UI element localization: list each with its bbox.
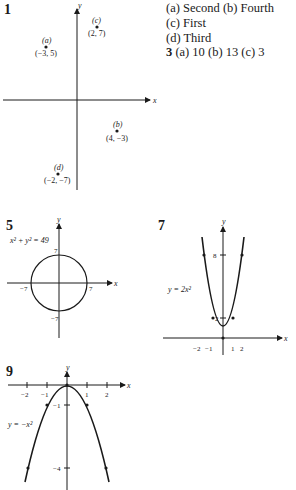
- point-d-coord: (−2, −7): [44, 176, 71, 185]
- problem-7-graph: 8 2 x y y = 2x² −2 −1 1 2: [150, 215, 296, 365]
- svg-text:2: 2: [240, 345, 244, 353]
- answer-1-line-3: (d) Third: [166, 31, 211, 46]
- svg-text:2: 2: [215, 315, 219, 323]
- svg-text:−7: −7: [20, 285, 28, 293]
- svg-text:y: y: [56, 215, 61, 224]
- svg-text:7: 7: [54, 247, 58, 255]
- answer-3-line: 3 (a) 10 (b) 13 (c) 3: [166, 45, 265, 60]
- equation-9: y = −x²: [7, 420, 33, 429]
- problem-5-graph: x y x² + y² = 49 7 −7 −7 7: [0, 215, 150, 345]
- point-d-tag: (d): [54, 163, 64, 172]
- svg-text:x: x: [126, 381, 131, 390]
- point-b-coord: (4, −3): [106, 134, 128, 143]
- svg-text:2: 2: [105, 391, 109, 399]
- point-c-coord: (2, 7): [88, 29, 106, 38]
- svg-text:x: x: [113, 279, 118, 288]
- svg-text:y: y: [65, 363, 70, 372]
- point-b-tag: (b): [113, 120, 123, 129]
- answer-1-line-2: (c) First: [166, 16, 206, 31]
- y-axis-label: y: [77, 1, 82, 10]
- point-a-coord: (−3, 5): [35, 49, 57, 58]
- problem-1-graph: x y (c) (2, 7) (a) (−3, 5) (b) (4, −3) (…: [0, 0, 160, 200]
- svg-text:−4: −4: [53, 465, 61, 473]
- svg-text:7: 7: [89, 285, 93, 293]
- point-b: [115, 129, 118, 132]
- svg-text:−2: −2: [193, 345, 201, 353]
- svg-text:x: x: [283, 334, 288, 343]
- svg-text:y: y: [221, 217, 226, 226]
- equation-7: y = 2x²: [167, 285, 192, 294]
- problem-3-number: 3: [166, 45, 172, 59]
- svg-text:1: 1: [231, 345, 235, 353]
- svg-text:−2: −2: [21, 391, 29, 399]
- point-a-tag: (a): [42, 36, 52, 45]
- svg-text:−1: −1: [205, 345, 213, 353]
- problem-9-graph: −2 −1 1 2 −1 −4 x y y = −x²: [0, 350, 160, 490]
- equation-5: x² + y² = 49: [9, 236, 49, 245]
- svg-text:−7: −7: [51, 315, 59, 323]
- x-axis-label: x: [152, 96, 157, 105]
- svg-text:−1: −1: [53, 402, 61, 410]
- svg-text:8: 8: [213, 252, 217, 260]
- answer-1-line-1: (a) Second (b) Fourth: [166, 1, 274, 16]
- svg-text:−1: −1: [41, 391, 49, 399]
- answer-3-text: (a) 10 (b) 13 (c) 3: [175, 45, 264, 59]
- svg-text:1: 1: [85, 391, 89, 399]
- point-c-tag: (c): [92, 16, 101, 25]
